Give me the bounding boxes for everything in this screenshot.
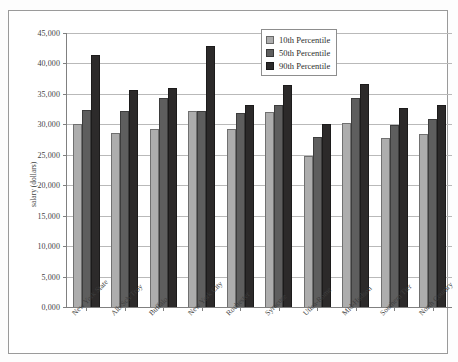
- y-tick-label: 30,000: [37, 120, 60, 129]
- bar-group: [375, 33, 414, 307]
- legend-swatch-icon: [266, 62, 274, 70]
- x-label-cell: Utica-Rome: [297, 309, 336, 362]
- bar: [120, 111, 129, 307]
- legend-item[interactable]: 50th Percentile: [266, 46, 330, 59]
- bar: [274, 105, 283, 307]
- bar: [73, 124, 82, 307]
- bar: [351, 98, 360, 307]
- legend-swatch-icon: [266, 36, 274, 44]
- bar: [168, 88, 177, 307]
- legend-label: 90th Percentile: [279, 61, 330, 71]
- bar: [399, 108, 408, 307]
- bar-group: [183, 33, 222, 307]
- bar: [91, 55, 100, 307]
- bar: [283, 85, 292, 307]
- legend-item[interactable]: 90th Percentile: [266, 59, 330, 72]
- bar: [437, 105, 446, 307]
- bar: [150, 129, 159, 307]
- bar-groups: [67, 33, 452, 307]
- legend-swatch-icon: [266, 49, 274, 57]
- y-tick-label: 40,000: [37, 59, 60, 68]
- bar-group: [106, 33, 145, 307]
- y-tick-label: 25,000: [37, 150, 60, 159]
- y-tick-label: 35,000: [37, 89, 60, 98]
- bar: [227, 129, 236, 307]
- legend-label: 10th Percentile: [279, 35, 330, 45]
- bar: [236, 113, 245, 307]
- x-label-cell: Rochester: [220, 309, 259, 362]
- x-label-cell: New York City: [182, 309, 221, 362]
- bar: [360, 84, 369, 307]
- x-label-cell: Southern Tier: [374, 309, 413, 362]
- bar: [82, 110, 91, 307]
- bar: [188, 111, 197, 307]
- x-label-cell: North Country: [413, 309, 452, 362]
- bar: [245, 105, 254, 307]
- x-label-cell: Mid-Hudson: [336, 309, 375, 362]
- bar: [304, 156, 313, 307]
- bar: [197, 111, 206, 307]
- y-tick-mark: [63, 307, 67, 308]
- bar: [129, 90, 138, 307]
- bar-group: [67, 33, 106, 307]
- figure-frame: salary (dollars) 0,0005,00010,00015,0002…: [8, 10, 448, 354]
- bar: [313, 137, 322, 307]
- bar-group: [414, 33, 453, 307]
- bar: [265, 112, 274, 307]
- y-tick-label: 5,000: [42, 272, 61, 281]
- x-label-cell: New York State: [66, 309, 105, 362]
- legend-label: 50th Percentile: [279, 48, 330, 58]
- bar: [322, 124, 331, 307]
- y-tick-label: 45,000: [37, 29, 60, 38]
- chart-figure: salary (dollars) 0,0005,00010,00015,0002…: [0, 0, 458, 362]
- bar: [206, 46, 215, 307]
- chart-legend: 10th Percentile50th Percentile90th Perce…: [261, 29, 337, 76]
- bar-group: [337, 33, 376, 307]
- bar: [419, 134, 428, 307]
- x-label-cell: Alb/Sch/Troy: [105, 309, 144, 362]
- bar-group: [221, 33, 260, 307]
- y-tick-label: 15,000: [37, 211, 60, 220]
- y-tick-label: 10,000: [37, 242, 60, 251]
- y-tick-label: 20,000: [37, 181, 60, 190]
- bar: [342, 123, 351, 307]
- bar: [428, 119, 437, 307]
- bar: [111, 133, 120, 307]
- legend-item[interactable]: 10th Percentile: [266, 33, 330, 46]
- bar: [381, 138, 390, 307]
- plot-area: 0,0005,00010,00015,00020,00025,00030,000…: [66, 33, 452, 308]
- y-tick-label: 0,000: [42, 303, 61, 312]
- x-label-cell: Buffalo: [143, 309, 182, 362]
- x-label-cell: Syracuse: [259, 309, 298, 362]
- bar: [159, 98, 168, 307]
- x-axis-labels: New York StateAlb/Sch/TroyBuffaloNew Yor…: [66, 309, 451, 362]
- bar: [390, 125, 399, 307]
- bar-group: [144, 33, 183, 307]
